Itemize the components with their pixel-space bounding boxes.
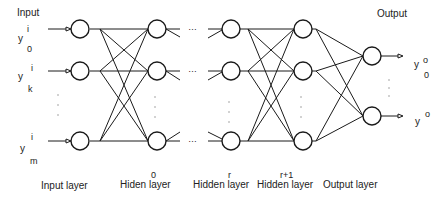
input-symbol-sup: i — [31, 63, 33, 73]
output-symbol-sup: o — [423, 55, 428, 65]
network-diagram — [0, 0, 447, 200]
layer-label-input: Input layer — [41, 181, 88, 191]
layer-label-output: Output layer — [323, 180, 377, 190]
ellipsis: … — [188, 134, 197, 144]
input-symbol-base: y — [18, 72, 23, 82]
input-symbol-base: y — [20, 144, 25, 154]
input-symbol-sub: k — [28, 84, 33, 94]
ellipsis: … — [188, 22, 197, 32]
layer-label-hidden-0: Hiden layer — [120, 180, 171, 190]
output-symbol-base: y — [415, 117, 420, 127]
output-symbol-base: y — [414, 60, 419, 70]
input-symbol-sub: 0 — [27, 44, 32, 54]
ellipsis: … — [188, 64, 197, 74]
input-symbol-sub: m — [30, 156, 38, 166]
input-symbol-sup: i — [31, 132, 33, 142]
input-symbol-sup: i — [27, 24, 29, 34]
output-title: Output — [377, 9, 407, 19]
input-title: Input — [17, 8, 39, 18]
layer-label-hidden-r: Hidden layer — [193, 180, 249, 190]
output-symbol-sup: o — [425, 109, 430, 119]
layer-label-hidden-r1: Hidden layer — [257, 180, 313, 190]
output-symbol-sub: 0 — [424, 70, 429, 80]
input-symbol-base: y — [18, 34, 23, 44]
